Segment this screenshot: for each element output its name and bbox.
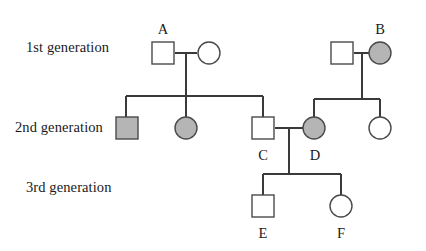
symbol-individual-B — [369, 42, 391, 64]
individual-label-E: E — [251, 225, 275, 242]
pedigree-symbols — [116, 42, 391, 217]
symbol-individual-gen2-daughter-left — [175, 117, 197, 139]
generation-label-1: 1st generation — [26, 39, 109, 56]
symbol-individual-gen1-mother-left — [198, 42, 220, 64]
individual-label-D: D — [303, 147, 327, 164]
symbol-individual-F — [330, 195, 352, 217]
individual-label-A: A — [151, 21, 175, 38]
symbol-individual-gen1-father-right — [331, 42, 353, 64]
individual-label-C: C — [251, 147, 275, 164]
symbol-individual-gen2-daughter-right — [369, 117, 391, 139]
symbol-individual-E — [252, 195, 274, 217]
symbol-individual-C — [252, 117, 274, 139]
symbol-individual-gen2-son-left — [116, 117, 138, 139]
generation-label-2: 2nd generation — [15, 119, 103, 136]
individual-label-F: F — [329, 225, 353, 242]
symbol-individual-A — [152, 42, 174, 64]
individual-label-B: B — [368, 21, 392, 38]
symbol-individual-D — [303, 117, 325, 139]
pedigree-diagram: 1st generation 2nd generation 3rd genera… — [0, 0, 426, 251]
generation-label-3: 3rd generation — [26, 179, 112, 196]
